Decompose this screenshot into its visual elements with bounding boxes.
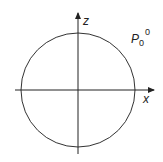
z-axis-label: z	[82, 14, 89, 28]
diagram-canvas: z x P 0 0	[0, 0, 163, 162]
x-axis-label: x	[142, 92, 150, 106]
p-subscript: 0	[139, 38, 144, 48]
p-label: P	[131, 32, 139, 46]
p-superscript: 0	[145, 27, 150, 37]
